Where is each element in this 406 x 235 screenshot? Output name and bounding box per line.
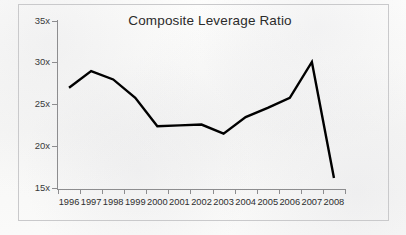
y-axis-tick-label: 35x xyxy=(20,15,50,26)
x-axis-tick-label: 2000 xyxy=(147,197,168,207)
x-axis-tick-mark xyxy=(257,190,258,194)
chart-image: Composite Leverage Ratio 35x30x25x20x15x… xyxy=(0,0,406,235)
x-axis-tick-label: 1999 xyxy=(125,197,146,207)
x-axis-tick-mark xyxy=(235,190,236,194)
y-axis-tick-label: 15x xyxy=(20,182,50,193)
x-axis-tick-mark xyxy=(168,190,169,194)
x-axis-tick-mark xyxy=(102,190,103,194)
x-axis-tick-label: 2004 xyxy=(235,197,256,207)
x-axis-tick-label: 1997 xyxy=(81,197,102,207)
y-axis-tick-mark xyxy=(52,188,57,189)
x-axis-tick-label: 1996 xyxy=(59,197,80,207)
x-axis-tick-mark xyxy=(190,190,191,194)
x-axis-tick-mark xyxy=(80,190,81,194)
x-axis-tick-label: 2005 xyxy=(257,197,278,207)
y-axis-tick-mark xyxy=(52,62,57,63)
x-axis-tick-mark xyxy=(58,190,59,194)
x-axis-tick-label: 2006 xyxy=(279,197,300,207)
x-axis-tick-label: 2008 xyxy=(324,197,345,207)
x-axis-tick-mark xyxy=(345,190,346,194)
x-axis-tick-mark xyxy=(124,190,125,194)
x-axis-tick-label: 2007 xyxy=(302,197,323,207)
y-axis-tick-label: 25x xyxy=(20,98,50,109)
y-axis-tick-label: 30x xyxy=(20,56,50,67)
x-axis-tick-label: 2002 xyxy=(191,197,212,207)
x-axis-tick-label: 2003 xyxy=(213,197,234,207)
x-axis-line xyxy=(57,189,346,190)
y-axis-tick-label: 20x xyxy=(20,140,50,151)
x-axis-tick-mark xyxy=(279,190,280,194)
x-axis-tick-mark xyxy=(323,190,324,194)
x-axis-tick-label: 1998 xyxy=(103,197,124,207)
x-axis-tick-label: 2001 xyxy=(169,197,190,207)
chart-title: Composite Leverage Ratio xyxy=(60,13,360,28)
y-axis-line xyxy=(57,20,58,190)
x-axis-tick-mark xyxy=(301,190,302,194)
x-axis-tick-mark xyxy=(213,190,214,194)
y-axis-tick-mark xyxy=(52,146,57,147)
y-axis-tick-mark xyxy=(52,21,57,22)
x-axis-tick-mark xyxy=(146,190,147,194)
y-axis-tick-mark xyxy=(52,104,57,105)
